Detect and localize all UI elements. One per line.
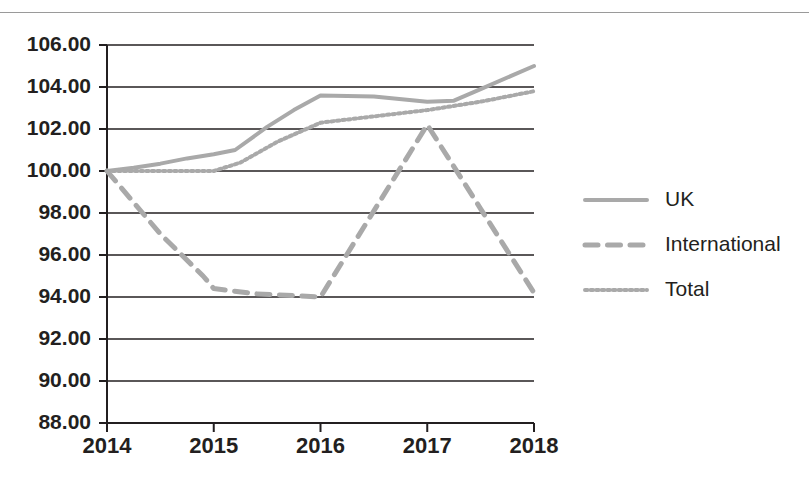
x-tickmarks-group — [107, 423, 534, 432]
series-line-international — [107, 125, 534, 297]
y-tick-label: 100.00 — [27, 158, 91, 181]
legend-label-international: International — [665, 232, 781, 255]
legend-label-uk: UK — [665, 187, 694, 210]
y-tick-label: 104.00 — [27, 74, 91, 97]
series-line-uk — [107, 66, 534, 171]
y-tick-label: 92.00 — [38, 326, 91, 349]
y-tick-labels-group: 106.00104.00102.00100.0098.0096.0094.009… — [27, 32, 91, 433]
y-tick-label: 96.00 — [38, 242, 91, 265]
y-tick-label: 106.00 — [27, 32, 91, 55]
y-tick-label: 94.00 — [38, 284, 91, 307]
x-tick-label: 2016 — [296, 433, 345, 458]
x-tick-labels-group: 20142015201620172018 — [83, 433, 559, 458]
y-tick-label: 102.00 — [27, 116, 91, 139]
series-line-total — [107, 91, 534, 171]
x-tick-label: 2014 — [83, 433, 133, 458]
y-tick-label: 88.00 — [38, 410, 91, 433]
chart-legend: UKInternationalTotal — [585, 187, 781, 300]
legend-label-total: Total — [665, 277, 709, 300]
x-tick-label: 2018 — [510, 433, 559, 458]
data-series-group — [107, 66, 534, 297]
y-tickmarks-group — [99, 45, 107, 423]
y-tick-label: 90.00 — [38, 368, 91, 391]
chart-canvas: 106.00104.00102.00100.0098.0096.0094.009… — [0, 0, 809, 492]
x-tick-label: 2015 — [189, 433, 238, 458]
y-tick-label: 98.00 — [38, 200, 91, 223]
x-tick-label: 2017 — [403, 433, 452, 458]
line-chart-figure: 106.00104.00102.00100.0098.0096.0094.009… — [0, 0, 809, 492]
